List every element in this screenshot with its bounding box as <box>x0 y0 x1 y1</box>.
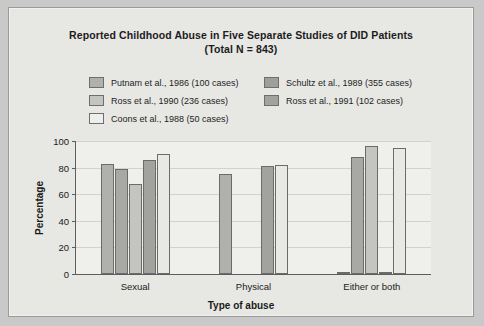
legend-swatch-icon <box>264 77 279 88</box>
bar <box>365 146 378 274</box>
legend-label: Ross et al., 1990 (236 cases) <box>111 96 228 106</box>
legend-item-putnam-1986: Putnam et al., 1986 (100 cases) <box>89 77 239 88</box>
chart-legend: Putnam et al., 1986 (100 cases) Schultz … <box>89 77 409 129</box>
bar <box>351 157 364 274</box>
bar <box>143 160 156 274</box>
y-axis-tick-label: 40 <box>58 215 69 226</box>
x-axis-group-label: Either or both <box>313 281 431 292</box>
bar <box>129 184 142 274</box>
legend-swatch-icon <box>89 113 104 124</box>
x-axis-group-label: Physical <box>194 281 312 292</box>
bar <box>101 164 114 274</box>
legend-item-schultz-1989: Schultz et al., 1989 (355 cases) <box>264 77 412 88</box>
y-axis-title: Percentage <box>34 181 45 235</box>
x-axis-group-label: Sexual <box>76 281 194 292</box>
y-axis-tick-label: 60 <box>58 189 69 200</box>
y-axis-tick-label: 20 <box>58 242 69 253</box>
y-axis-tick-mark <box>72 274 76 275</box>
y-axis-tick-label: 100 <box>53 136 69 147</box>
bar <box>261 166 274 274</box>
legend-label: Coons et al., 1988 (50 cases) <box>111 114 229 124</box>
bar-group: Either or both <box>313 141 431 274</box>
bar <box>157 154 170 274</box>
bar <box>275 165 288 274</box>
legend-label: Schultz et al., 1989 (355 cases) <box>286 78 412 88</box>
bar <box>337 272 350 275</box>
bar <box>115 169 128 274</box>
legend-label: Ross et al., 1991 (102 cases) <box>286 96 403 106</box>
legend-swatch-icon <box>264 95 279 106</box>
legend-item-coons-1988: Coons et al., 1988 (50 cases) <box>89 113 229 124</box>
legend-label: Putnam et al., 1986 (100 cases) <box>111 78 239 88</box>
legend-item-ross-1990: Ross et al., 1990 (236 cases) <box>89 95 228 106</box>
chart-title: Reported Childhood Abuse in Five Separat… <box>9 29 473 43</box>
bar <box>393 148 406 274</box>
y-axis-tick-label: 0 <box>64 269 69 280</box>
chart-figure: Reported Childhood Abuse in Five Separat… <box>8 7 474 317</box>
bar <box>219 174 232 274</box>
chart-subtitle: (Total N = 843) <box>9 43 473 57</box>
legend-swatch-icon <box>89 77 104 88</box>
legend-item-ross-1991: Ross et al., 1991 (102 cases) <box>264 95 403 106</box>
bar-group: Physical <box>194 141 312 274</box>
plot-area: 020406080100SexualPhysicalEither or both <box>75 141 431 275</box>
legend-swatch-icon <box>89 95 104 106</box>
bar <box>379 272 392 275</box>
bar-group: Sexual <box>76 141 194 274</box>
x-axis-title: Type of abuse <box>9 300 473 311</box>
y-axis-tick-label: 80 <box>58 162 69 173</box>
chart-title-block: Reported Childhood Abuse in Five Separat… <box>9 29 473 56</box>
